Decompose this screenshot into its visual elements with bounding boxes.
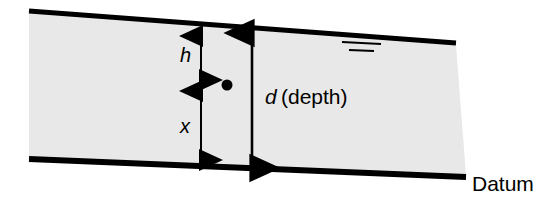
water-table-bar-short — [349, 50, 374, 51]
point-marker — [222, 80, 233, 91]
channel-flow-diagram: h x d (depth) Datum — [0, 0, 552, 217]
label-datum: Datum — [472, 172, 534, 195]
diagram-root: h x d (depth) Datum — [0, 0, 552, 217]
label-x: x — [179, 115, 191, 137]
label-d-description: (depth) — [281, 85, 348, 108]
label-d-symbol: d — [265, 85, 278, 108]
label-h: h — [180, 44, 191, 66]
